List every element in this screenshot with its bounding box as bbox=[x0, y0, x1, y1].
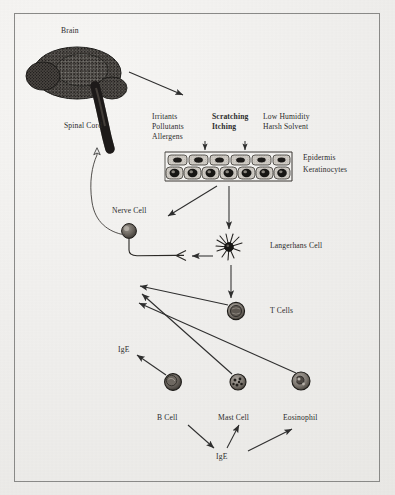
label-pollutants: Pollutants bbox=[152, 122, 184, 132]
arrow-bcell-to-ige-bottom bbox=[188, 425, 214, 448]
t-cell-illustration bbox=[227, 302, 244, 319]
mast-cell-illustration bbox=[230, 374, 246, 390]
label-t-cells: T Cells bbox=[270, 306, 293, 316]
label-brain: Brain bbox=[61, 26, 79, 36]
label-ige-bottom: IgE bbox=[216, 452, 227, 462]
arrow-epidermis-to-nerve bbox=[168, 186, 217, 216]
arrow-ige-to-mastcell bbox=[227, 425, 239, 448]
label-harsh-solvent: Harsh Solvent bbox=[263, 122, 308, 132]
arrow-ige-to-eosinophil bbox=[248, 429, 292, 451]
arrow-tcell-to-nerve bbox=[140, 286, 228, 305]
label-eosinophil: Eosinophil bbox=[283, 413, 317, 423]
label-allergens: Allergens bbox=[152, 132, 183, 142]
arrow-brain-to-triggers bbox=[129, 72, 183, 95]
label-low-humidity: Low Humidity bbox=[263, 112, 310, 122]
label-irritants: Irritants bbox=[152, 112, 177, 122]
brain-illustration bbox=[26, 47, 127, 149]
pathway-diagram bbox=[0, 0, 395, 495]
label-nerve-cell: Nerve Cell bbox=[112, 206, 147, 216]
epidermis-keratinocyte-strip bbox=[165, 152, 292, 181]
b-cell-illustration bbox=[165, 374, 182, 391]
langerhans-cell-illustration bbox=[216, 234, 242, 260]
label-ige-left: IgE bbox=[118, 345, 129, 355]
arrow-mastcell-to-nerve bbox=[142, 294, 232, 374]
arrow-bcell-to-ige bbox=[137, 355, 166, 375]
label-b-cell: B Cell bbox=[157, 413, 178, 423]
label-keratinocytes: Keratinocytes bbox=[303, 165, 347, 175]
label-itching: Itching bbox=[212, 122, 236, 132]
figure-page: Brain Spinal Cord Irritants Pollutants A… bbox=[0, 0, 395, 495]
label-spinal-cord: Spinal Cord bbox=[64, 121, 102, 131]
label-langerhans-cell: Langerhans Cell bbox=[270, 241, 322, 251]
label-epidermis: Epidermis bbox=[303, 153, 336, 163]
label-mast-cell: Mast Cell bbox=[218, 413, 249, 423]
label-scratching: Scratching bbox=[212, 112, 249, 122]
eosinophil-illustration bbox=[292, 372, 310, 390]
